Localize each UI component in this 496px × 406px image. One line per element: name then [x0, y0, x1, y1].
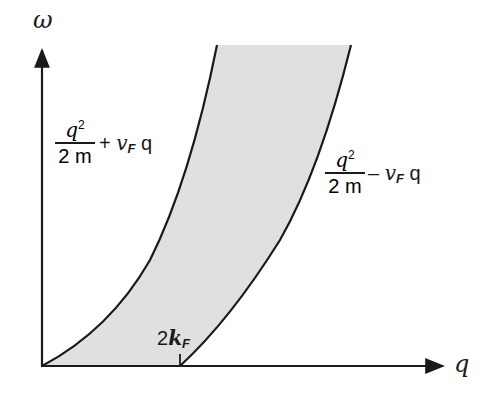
y-axis-label: ω: [33, 6, 53, 34]
lower-velocity: v: [385, 161, 396, 185]
tick-label-2kf: 2kF: [157, 326, 190, 351]
fraction-bar: [55, 142, 95, 144]
lower-operator: –: [368, 162, 379, 184]
continuum-region: [42, 45, 351, 366]
upper-denominator: 2 m: [58, 145, 91, 167]
lower-numerator: q: [335, 148, 348, 172]
upper-operator: +: [99, 132, 111, 154]
fraction-bar: [325, 172, 365, 174]
lower-denominator: 2 m: [328, 175, 361, 197]
upper-numerator: q: [65, 118, 78, 142]
dispersion-diagram: [0, 0, 496, 406]
upper-velocity: v: [116, 131, 127, 155]
lower-tail: q: [410, 162, 421, 184]
upper-tail: q: [141, 132, 152, 154]
x-axis-label: q: [454, 350, 469, 378]
